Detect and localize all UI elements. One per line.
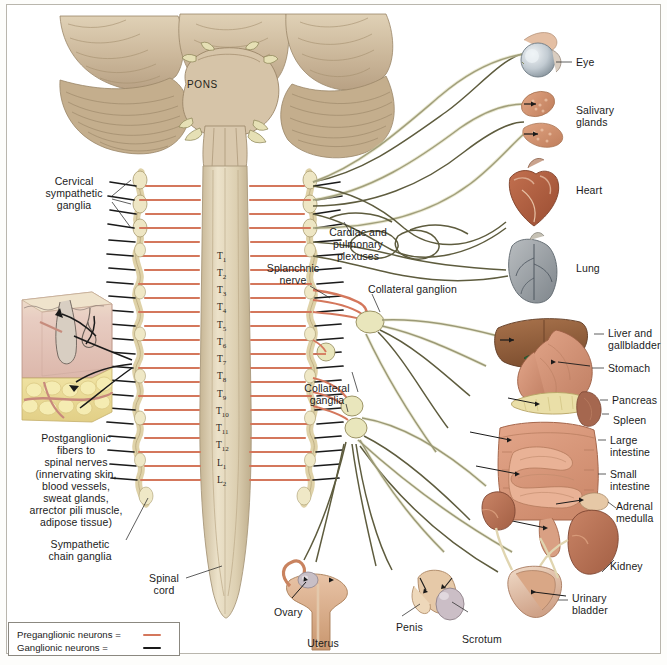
label-liver-gallbladder: Liver and gallbladder — [608, 327, 660, 351]
vertebra-label-T3: T3 — [217, 285, 226, 298]
label-splanchnic-nerve: Splanchnic nerve — [262, 262, 324, 286]
vertebra-label-T2: T2 — [217, 268, 226, 281]
label-lung: Lung — [576, 262, 600, 274]
sympathetic-nervous-system-figure: PONS Cervical sympathetic ganglia Postga… — [0, 0, 667, 665]
label-eye: Eye — [576, 56, 594, 68]
vertebra-label-L2: L2 — [217, 475, 226, 488]
label-salivary-glands: Salivary glands — [576, 104, 614, 128]
label-collateral-ganglion: Collateral ganglion — [368, 283, 478, 295]
legend-box: Preganglionic neurons = Ganglionic neuro… — [8, 622, 180, 656]
penis-scrotum-illustration — [412, 570, 464, 620]
salivary-glands-illustration — [518, 87, 563, 147]
label-stomach: Stomach — [608, 362, 650, 374]
pancreas-illustration — [508, 393, 587, 415]
label-heart: Heart — [576, 184, 602, 196]
label-penis: Penis — [396, 621, 423, 633]
legend-label-ganglionic: Ganglionic neurons = — [17, 642, 108, 653]
legend-label-preganglionic: Preganglionic neurons = — [17, 629, 121, 640]
vertebra-label-L1: L1 — [217, 458, 226, 471]
label-collateral-ganglia: Collateral ganglia — [294, 382, 360, 406]
vertebra-label-T9: T9 — [217, 389, 226, 402]
eye-illustration — [521, 33, 561, 77]
label-adrenal-medulla: Adrenal medulla — [616, 500, 653, 524]
label-pancreas: Pancreas — [612, 394, 657, 406]
vertebra-label-T12: T12 — [216, 440, 229, 453]
label-ovary: Ovary — [274, 606, 303, 618]
label-spleen: Spleen — [613, 414, 646, 426]
vertebra-label-T1: T1 — [217, 251, 226, 264]
brain-illustration — [60, 14, 394, 168]
lung-illustration — [509, 233, 557, 303]
spleen-illustration — [577, 392, 601, 427]
pons-label: PONS — [187, 79, 218, 90]
legend-swatch-ganglionic — [143, 647, 161, 649]
label-uterus: Uterus — [300, 637, 346, 649]
vertebra-label-T10: T10 — [216, 406, 229, 419]
label-scrotum: Scrotum — [462, 633, 502, 645]
vertebra-label-T11: T11 — [216, 423, 229, 436]
heart-illustration — [509, 158, 558, 226]
legend-swatch-preganglionic — [143, 634, 161, 636]
label-postganglionic-fibers: Postganglionic fibers to spinal nerves (… — [12, 432, 140, 528]
label-cardiac-pulmonary-plexuses: Cardiac and pulmonary plexuses — [318, 226, 398, 262]
label-urinary-bladder: Urinary bladder — [572, 592, 608, 616]
label-small-intestine: Small intestine — [610, 468, 650, 492]
label-kidney: Kidney — [610, 560, 643, 572]
label-sympathetic-chain-ganglia: Sympathetic chain ganglia — [30, 538, 130, 562]
anatomy-artwork — [0, 0, 667, 665]
label-cervical-sympathetic-ganglia: Cervical sympathetic ganglia — [36, 175, 112, 211]
vertebra-label-T4: T4 — [217, 302, 226, 315]
vertebra-label-T5: T5 — [217, 320, 226, 333]
vertebra-label-T8: T8 — [217, 371, 226, 384]
label-spinal-cord: Spinal cord — [140, 572, 188, 596]
vertebra-label-T7: T7 — [217, 354, 226, 367]
vertebra-label-T6: T6 — [217, 337, 226, 350]
label-large-intestine: Large intestine — [610, 434, 650, 458]
